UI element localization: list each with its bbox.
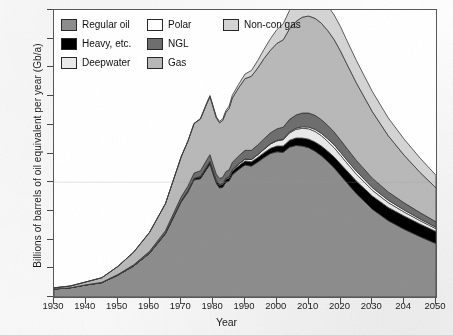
legend: Regular oilPolarNon-con gasHeavy, etc.NG…: [61, 15, 319, 72]
x-tick-mark-1990: [244, 298, 245, 304]
legend-swatch-heavy-etc: [61, 38, 77, 50]
legend-swatch-ngl: [147, 38, 163, 50]
x-tick-mark-1960: [149, 298, 150, 304]
legend-item-deepwater: Deepwater: [61, 57, 147, 69]
legend-swatch-gas: [147, 57, 163, 69]
legend-item-regular-oil: Regular oil: [61, 19, 147, 31]
legend-item-gas: Gas: [147, 57, 223, 69]
legend-label-deepwater: Deepwater: [82, 57, 130, 68]
legend-swatch-polar: [147, 19, 163, 31]
legend-label-gas: Gas: [168, 57, 186, 68]
x-tick-label-2050: 2050: [412, 300, 453, 311]
legend-label-heavy-etc: Heavy, etc.: [82, 38, 131, 49]
legend-label-non-con-gas: Non-con gas: [244, 19, 301, 30]
legend-item-heavy-etc: Heavy, etc.: [61, 38, 147, 50]
legend-swatch-non-con-gas: [223, 19, 239, 31]
x-tick-mark-1950: [117, 298, 118, 304]
x-tick-mark-2020: [340, 298, 341, 304]
x-tick-mark-2040: [403, 298, 404, 304]
x-tick-mark-1970: [180, 298, 181, 304]
legend-swatch-deepwater: [61, 57, 77, 69]
legend-swatch-regular-oil: [61, 19, 77, 31]
legend-item-polar: Polar: [147, 19, 223, 31]
x-tick-mark-2030: [371, 298, 372, 304]
x-tick-mark-2050: [435, 298, 436, 304]
legend-label-polar: Polar: [168, 19, 191, 30]
legend-item-non-con-gas: Non-con gas: [223, 19, 319, 31]
legend-item-ngl: NGL: [147, 38, 223, 50]
legend-label-ngl: NGL: [168, 38, 189, 49]
figure: Billions of barrels of oil equivalent pe…: [0, 0, 453, 335]
x-tick-mark-1930: [53, 298, 54, 304]
x-tick-mark-1980: [212, 298, 213, 304]
y-axis-title: Billions of barrels of oil equivalent pe…: [32, 26, 43, 286]
legend-label-regular-oil: Regular oil: [82, 19, 130, 30]
x-tick-mark-2000: [276, 298, 277, 304]
x-tick-mark-2010: [308, 298, 309, 304]
x-tick-mark-1940: [85, 298, 86, 304]
x-axis-title: Year: [0, 316, 453, 328]
